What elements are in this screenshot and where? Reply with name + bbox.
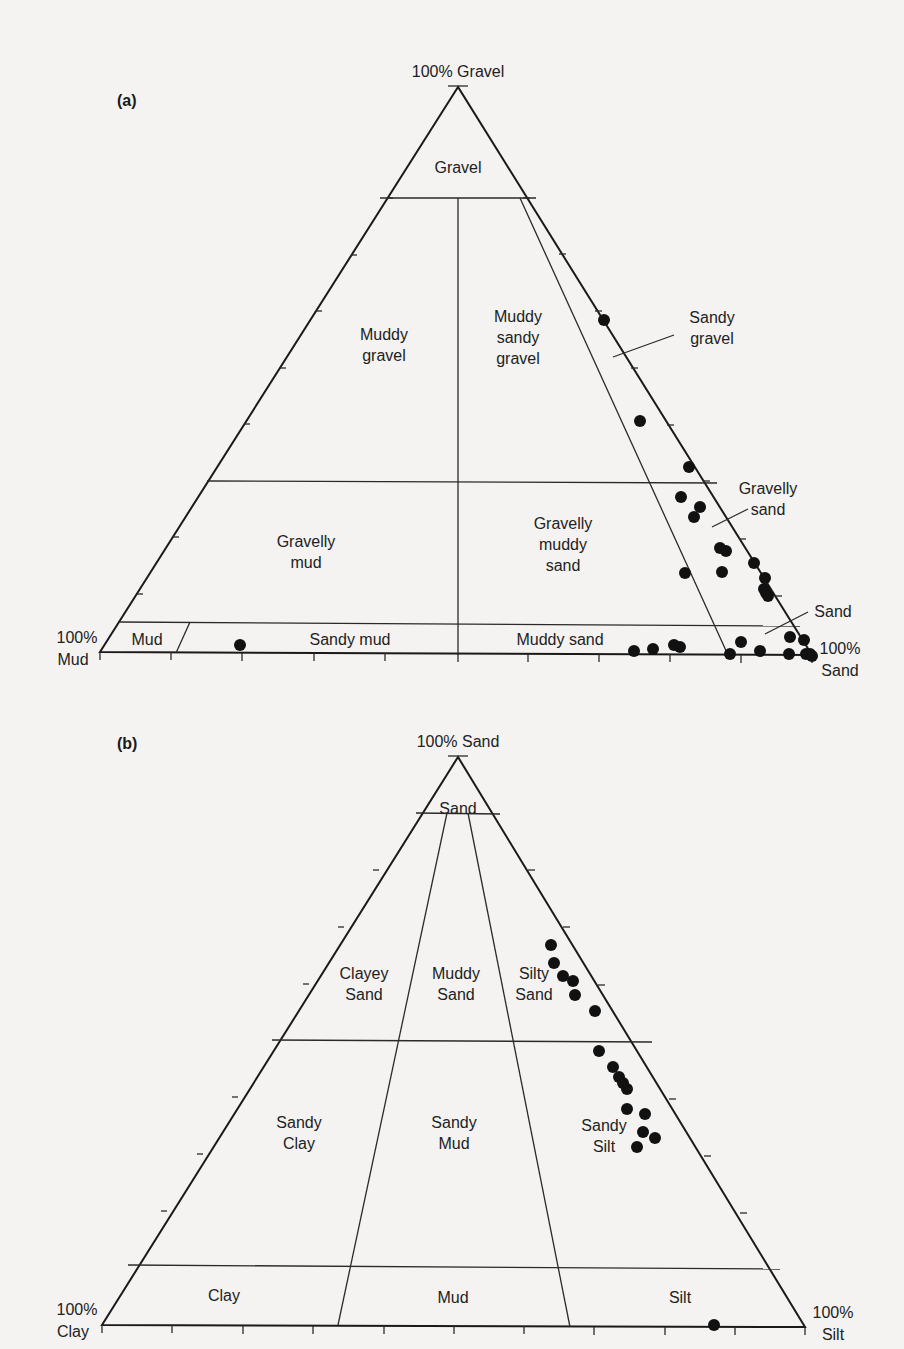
data-point <box>759 572 771 584</box>
region-label-gravelly-sand: Gravellysand <box>739 480 798 518</box>
region-label-gravelly-mud: Gravellymud <box>277 533 336 571</box>
region-label-muddy-sand: MuddySand <box>432 965 480 1003</box>
data-point <box>674 641 686 653</box>
region-label-silt: Silt <box>669 1289 692 1306</box>
data-point <box>806 650 818 662</box>
data-point <box>639 1108 651 1120</box>
data-point <box>637 1126 649 1138</box>
region-label-sand: Sand <box>814 603 851 620</box>
data-point <box>688 511 700 523</box>
data-point <box>621 1103 633 1115</box>
boundary-mud-sand-1-9 <box>520 198 728 655</box>
data-point <box>708 1319 720 1331</box>
region-label-gravel: Gravel <box>434 159 481 176</box>
data-point <box>735 636 747 648</box>
data-point <box>607 1061 619 1073</box>
vertex-label-mud: Mud <box>57 651 88 668</box>
data-point <box>548 957 560 969</box>
boundary-gravel-5 <box>118 622 800 626</box>
region-labels-b: SandClayeySandMuddySandSiltySandSandyCla… <box>208 800 692 1306</box>
region-label-sandy-clay: SandyClay <box>276 1114 321 1152</box>
region-label-mud: Mud <box>131 631 162 648</box>
region-labels-a: GravelMuddygravelMuddysandygravelSandygr… <box>131 159 851 648</box>
ternary-plot-b: (b) 100% Sand 100% Clay 100% Silt <box>57 733 854 1343</box>
data-point <box>234 639 246 651</box>
region-label-muddy-sandy-gravel: Muddysandygravel <box>494 308 542 367</box>
boundary-clay-1-2 <box>468 813 570 1327</box>
data-point <box>716 566 728 578</box>
sample-points-b <box>545 939 720 1331</box>
vertex-label-sand: Sand <box>821 662 858 679</box>
panel-label-a: (a) <box>117 92 137 109</box>
data-point <box>545 939 557 951</box>
data-point <box>593 1045 605 1057</box>
leader-sandy-gravel <box>613 335 674 357</box>
data-point <box>628 645 640 657</box>
region-label-sand: Sand <box>439 800 476 817</box>
region-label-muddy-gravel: Muddygravel <box>360 326 408 364</box>
data-point <box>783 648 795 660</box>
boundary-clay-2-1 <box>338 813 447 1325</box>
ternary-chart-figure: (a) 100% Gravel 100% Mud 100% Sand <box>0 0 904 1349</box>
region-label-sandy-mud: Sandy mud <box>310 631 391 648</box>
triangle-outline-b <box>102 757 805 1327</box>
region-label-mud: Mud <box>437 1289 468 1306</box>
panel-label-b: (b) <box>117 735 137 752</box>
data-point <box>754 645 766 657</box>
data-point <box>679 567 691 579</box>
region-label-sandy-gravel: Sandygravel <box>689 309 734 347</box>
data-point <box>720 545 732 557</box>
data-point <box>647 643 659 655</box>
boundary-sand-10 <box>128 1265 780 1269</box>
data-point <box>748 557 760 569</box>
region-label-clayey-sand: ClayeySand <box>340 965 389 1003</box>
data-point <box>675 491 687 503</box>
data-point <box>634 415 646 427</box>
region-label-clay: Clay <box>208 1287 240 1304</box>
data-point <box>631 1141 643 1153</box>
vertex-label-sand-pct: 100% <box>820 640 861 657</box>
boundary-gravel-30 <box>207 481 717 483</box>
vertex-label-mud-pct: 100% <box>57 629 98 646</box>
boundary-sand-50 <box>272 1040 652 1042</box>
vertex-label-gravel: 100% Gravel <box>412 63 505 80</box>
data-point <box>598 314 610 326</box>
boundary-mud-sandy-mud <box>176 622 190 653</box>
data-point <box>649 1132 661 1144</box>
region-label-sandy-silt: SandySilt <box>581 1117 626 1155</box>
vertex-label-silt-pct: 100% <box>813 1304 854 1321</box>
ternary-plot-a: (a) 100% Gravel 100% Mud 100% Sand <box>57 63 861 679</box>
vertex-label-sand-top: 100% Sand <box>417 733 500 750</box>
region-label-gravelly-muddy-sand: Gravellymuddysand <box>534 515 593 574</box>
region-label-silty-sand: SiltySand <box>515 965 552 1003</box>
data-point <box>724 648 736 660</box>
data-point <box>621 1083 633 1095</box>
data-point <box>567 975 579 987</box>
vertex-label-clay-pct: 100% <box>57 1301 98 1318</box>
data-point <box>683 461 695 473</box>
data-point <box>784 631 796 643</box>
region-label-muddy-sand: Muddy sand <box>516 631 603 648</box>
data-point <box>569 989 581 1001</box>
vertex-label-silt: Silt <box>822 1326 845 1343</box>
vertex-label-clay: Clay <box>57 1323 89 1340</box>
data-point <box>762 590 774 602</box>
data-point <box>798 634 810 646</box>
region-label-sandy-mud: SandyMud <box>431 1114 476 1152</box>
data-point <box>694 501 706 513</box>
data-point <box>589 1005 601 1017</box>
